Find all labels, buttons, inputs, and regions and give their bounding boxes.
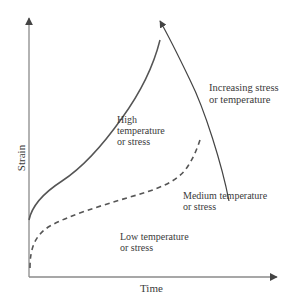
increasing-stress-arrow xyxy=(160,21,229,201)
increasing-stress-label: Increasing stress or temperature xyxy=(209,82,279,106)
increase-label-line-2: or temperature xyxy=(209,94,279,106)
medium-label-line-1: Medium temperature xyxy=(183,190,267,201)
increase-label-line-1: Increasing stress xyxy=(209,82,279,94)
medium-temperature-label: Medium temperature or stress xyxy=(183,190,267,212)
low-label-line-1: Low temperature xyxy=(120,231,189,242)
high-temperature-label: High temperature or stress xyxy=(117,114,165,147)
creep-curve-diagram xyxy=(0,0,290,304)
low-temperature-label: Low temperature or stress xyxy=(120,231,189,253)
high-label-line-1: High xyxy=(117,114,165,125)
y-axis-label: Strain xyxy=(15,141,27,175)
low-label-line-2: or stress xyxy=(120,242,189,253)
high-label-line-3: or stress xyxy=(117,136,165,147)
medium-label-line-2: or stress xyxy=(183,201,267,212)
high-label-line-2: temperature xyxy=(117,125,165,136)
x-axis-label: Time xyxy=(140,282,163,294)
